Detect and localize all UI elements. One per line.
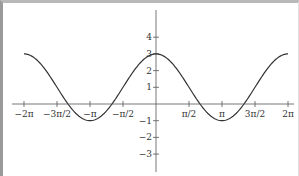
x-tick-label: −π: [83, 109, 97, 119]
axes: [12, 10, 294, 172]
y-tick-label: 4: [146, 32, 152, 42]
y-tick-label: 1: [146, 82, 152, 92]
y-tick-label: −1: [139, 116, 152, 126]
cosine-plot: −2π−3π/2−π−π/2π/2π3π/22π 4321−1−2−3: [0, 0, 299, 176]
x-tick-label: −2π: [14, 109, 33, 119]
x-tick-label: −π/2: [112, 109, 134, 119]
x-tick-label: 3π/2: [245, 109, 265, 119]
x-tick-label: π: [219, 109, 225, 119]
y-tick-label: 2: [146, 66, 152, 76]
y-tick-label: −3: [139, 149, 153, 159]
y-tick-label: −2: [139, 132, 152, 142]
x-tick-label: π/2: [182, 109, 197, 119]
x-tick-label: 2π: [282, 109, 294, 119]
x-tick-label: −3π/2: [43, 109, 71, 119]
